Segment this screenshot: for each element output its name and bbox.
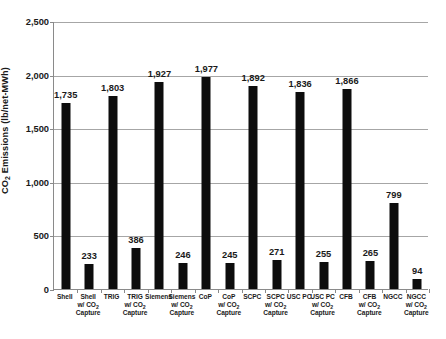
bar-value-label: 1,735 — [54, 90, 77, 100]
bar-slot: 1,866 — [335, 22, 358, 289]
y-axis-title-subscript: 2 — [4, 176, 11, 180]
bar[interactable] — [61, 103, 70, 289]
y-tick-label: 1,500 — [26, 124, 49, 134]
x-category-label-line: Capture — [253, 309, 299, 317]
co2-subscript: 2 — [237, 304, 240, 310]
bar[interactable] — [413, 279, 422, 289]
bar-slot: 1,735 — [54, 22, 77, 289]
co2-subscript: 2 — [377, 304, 380, 310]
bar-slot: 1,836 — [288, 22, 311, 289]
bar-slot: 245 — [218, 22, 241, 289]
x-category-label-line: w/ CO2 — [393, 301, 439, 309]
x-category-label-line: Capture — [112, 309, 158, 317]
y-tick-label: 500 — [33, 231, 49, 241]
plot-area: 05001,0001,5002,0002,5001,7352331,803386… — [53, 22, 428, 290]
co2-subscript: 2 — [190, 304, 193, 310]
x-category-label-line: NGCC — [393, 293, 439, 301]
x-category-label-line: w/ CO2 — [65, 301, 111, 309]
x-category-label-line: Capture — [159, 309, 205, 317]
bar-slot: 265 — [359, 22, 382, 289]
bar-slot: 94 — [406, 22, 429, 289]
bar[interactable] — [389, 203, 398, 289]
bar-value-label: 1,977 — [195, 64, 218, 74]
bar[interactable] — [319, 262, 328, 289]
bar-value-label: 1,927 — [148, 69, 171, 79]
co2-subscript: 2 — [283, 304, 286, 310]
bar-value-label: 386 — [128, 235, 144, 245]
bar-value-label: 1,836 — [288, 79, 311, 89]
x-category-label-line: w/ CO2 — [206, 301, 252, 309]
bar-slot: 1,803 — [101, 22, 124, 289]
bar-value-label: 1,892 — [242, 73, 265, 83]
x-category-label-line: Capture — [65, 309, 111, 317]
bar-slot: 1,892 — [242, 22, 265, 289]
co2-subscript: 2 — [96, 304, 99, 310]
y-tick-label: 2,000 — [26, 71, 49, 81]
bar-slot: 246 — [171, 22, 194, 289]
x-category-label: NGCCw/ CO2Capture — [393, 293, 439, 318]
x-category-label-line: w/ CO2 — [300, 301, 346, 309]
bar-value-label: 255 — [316, 249, 332, 259]
bar-slot: 1,927 — [148, 22, 171, 289]
bar[interactable] — [296, 92, 305, 289]
co2-subscript: 2 — [424, 304, 427, 310]
bar[interactable] — [108, 96, 117, 289]
x-category-label-line: Capture — [206, 309, 252, 317]
bar-slot: 386 — [124, 22, 147, 289]
bar[interactable] — [85, 264, 94, 289]
bar-value-label: 246 — [175, 250, 191, 260]
bar-slot: 233 — [77, 22, 100, 289]
bar[interactable] — [132, 248, 141, 289]
bar[interactable] — [178, 263, 187, 289]
bar[interactable] — [342, 89, 351, 289]
bar[interactable] — [155, 82, 164, 289]
bar-value-label: 1,803 — [101, 83, 124, 93]
x-category-label-line: w/ CO2 — [346, 301, 392, 309]
y-axis-title-post: Emissions (lb/net-MWh) — [0, 67, 10, 176]
bar-value-label: 245 — [222, 250, 238, 260]
bar-slot: 799 — [382, 22, 405, 289]
bar[interactable] — [272, 260, 281, 289]
bar-value-label: 799 — [386, 190, 402, 200]
bar[interactable] — [225, 263, 234, 289]
x-category-label-line: w/ CO2 — [253, 301, 299, 309]
y-tick-label: 1,000 — [26, 178, 49, 188]
co2-subscript: 2 — [143, 304, 146, 310]
x-category-label-line: w/ CO2 — [112, 301, 158, 309]
bar-slot: 1,977 — [195, 22, 218, 289]
x-category-label-line: Capture — [300, 309, 346, 317]
y-axis-title: CO2 Emissions (lb/net-MWh) — [0, 0, 18, 300]
bar-value-label: 94 — [412, 266, 422, 276]
bar-slot: 271 — [265, 22, 288, 289]
bar-value-label: 1,866 — [335, 76, 358, 86]
bar[interactable] — [202, 77, 211, 289]
y-tick-mark — [50, 290, 54, 291]
bar-value-label: 233 — [81, 251, 97, 261]
y-axis-title-pre: CO — [0, 180, 10, 194]
co2-subscript: 2 — [330, 304, 333, 310]
bar-slot: 255 — [312, 22, 335, 289]
bar[interactable] — [249, 86, 258, 289]
x-category-label-line: Capture — [393, 309, 439, 317]
bar-value-label: 271 — [269, 247, 285, 257]
x-category-label-line: w/ CO2 — [159, 301, 205, 309]
bar[interactable] — [366, 261, 375, 289]
bar-value-label: 265 — [363, 248, 379, 258]
co2-emissions-bar-chart: CO2 Emissions (lb/net-MWh) 05001,0001,50… — [0, 0, 446, 339]
x-category-label-line: Capture — [346, 309, 392, 317]
y-tick-label: 2,500 — [26, 17, 49, 27]
